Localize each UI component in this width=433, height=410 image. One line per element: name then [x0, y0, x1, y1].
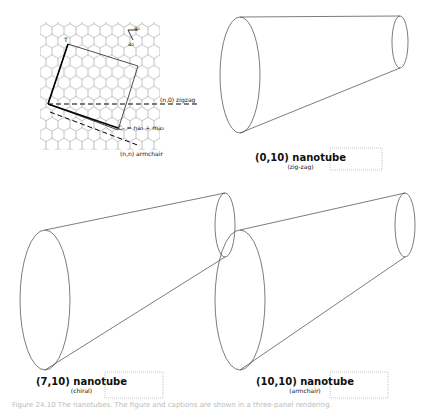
tube-label-chiral: (7,10) nanotube (chiral) — [36, 376, 127, 394]
tube-subtitle: (zig-zag) — [255, 163, 346, 170]
tube-title: (0,10) nanotube — [255, 152, 346, 163]
tube-title: (7,10) nanotube — [36, 376, 127, 387]
nanotube-illustrations — [0, 0, 433, 410]
tube-label-armchair: (10,10) nanotube (armchair) — [256, 376, 354, 394]
tube-title: (10,10) nanotube — [256, 376, 354, 387]
tube-subtitle: (chiral) — [36, 387, 127, 394]
chiral-tube-illustration — [20, 193, 235, 370]
tube-label-zigzag: (0,10) nanotube (zig-zag) — [255, 152, 346, 170]
figure-caption: Figure 24.10 The nanotubes. The figure a… — [12, 401, 332, 409]
armchair-tube-illustration — [215, 193, 415, 370]
zigzag-tube-illustration — [220, 16, 408, 133]
tube-subtitle: (armchair) — [256, 387, 354, 394]
